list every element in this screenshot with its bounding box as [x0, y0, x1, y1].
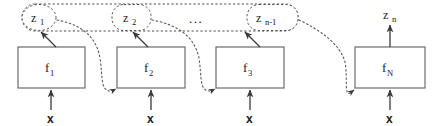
input-label-x3: x — [246, 112, 253, 126]
latent-z2-base: z — [123, 11, 128, 25]
input-label-x2: x — [147, 112, 154, 126]
input-label-x1: x — [47, 112, 54, 126]
arrow-f1-to-z1 — [41, 32, 56, 47]
arrow-f2-to-z2 — [133, 32, 148, 47]
function-f2-subscript: 2 — [149, 68, 153, 78]
latent-label-zn: z n — [383, 8, 397, 24]
dotted-curve-zn-1-to-fN — [299, 20, 354, 93]
diagram-canvas: z 1 z 2 z n-1 z n ... f 1 f 2 — [0, 0, 437, 126]
latent-zn-subscript: n — [392, 14, 397, 24]
latent-pill-z1 — [22, 5, 56, 31]
latent-zn-1-subscript: n-1 — [265, 17, 276, 27]
diagram-svg: z 1 z 2 z n-1 z n ... f 1 f 2 — [0, 0, 437, 126]
latent-z2-subscript: 2 — [132, 17, 136, 27]
latent-z1-subscript: 1 — [40, 17, 44, 27]
function-fN-subscript: N — [387, 68, 393, 78]
function-f3-subscript: 3 — [248, 68, 252, 78]
ellipsis-label: ... — [189, 11, 203, 26]
function-f1-subscript: 1 — [50, 68, 54, 78]
arrow-f3-to-zn-1 — [245, 32, 260, 47]
latent-zn-1-base: z — [256, 11, 261, 25]
latent-z1-base: z — [31, 11, 36, 25]
latent-zn-base: z — [383, 8, 388, 22]
input-label-xN: x — [386, 112, 393, 126]
